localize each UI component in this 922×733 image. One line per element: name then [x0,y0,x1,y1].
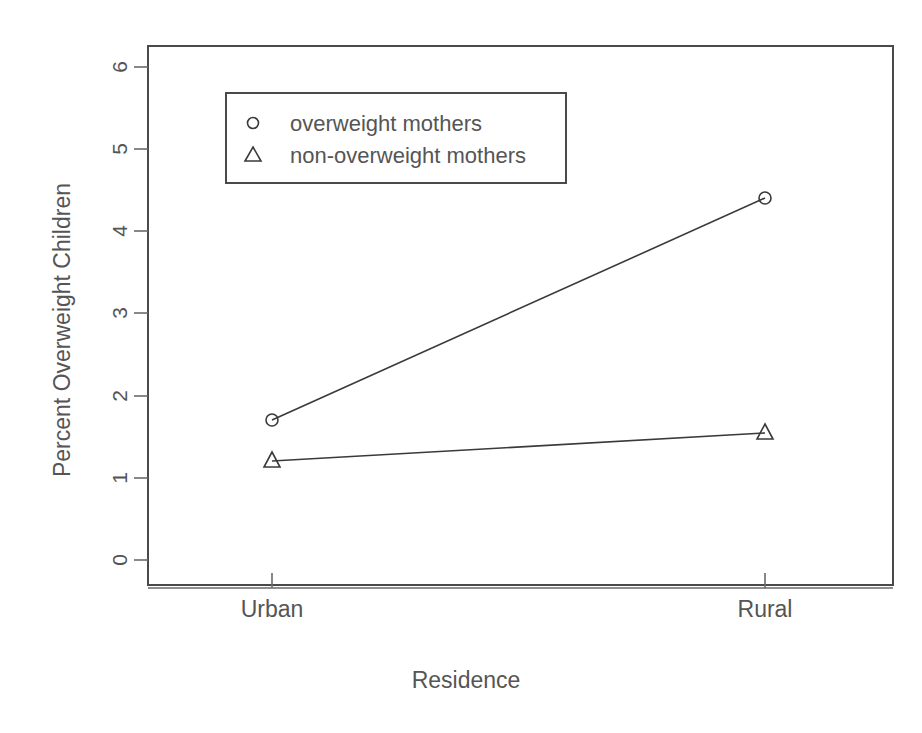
y-tick-label-3: 3 [108,307,131,319]
series-non-overweight-mothers [264,424,773,467]
y-tick-label-1: 1 [108,472,131,484]
legend-label-overweight: overweight mothers [290,111,482,136]
x-tick-label-rural: Rural [738,596,793,622]
series-overweight-line [272,198,765,420]
legend-label-non-overweight: non-overweight mothers [290,143,526,168]
y-axis-title: Percent Overweight Children [49,183,75,477]
x-axis-title: Residence [412,667,521,693]
y-tick-label-0: 0 [108,554,131,566]
y-tick-label-4: 4 [108,225,131,237]
series-overweight-mothers [266,192,771,426]
y-axis-ticks [134,67,148,560]
data-point-non-overweight-rural [757,424,773,439]
x-tick-label-urban: Urban [241,596,304,622]
legend-box [226,93,566,183]
cropped-title-strip [0,0,922,10]
y-tick-label-6: 6 [108,61,131,73]
chart-figure: 0 1 2 3 4 5 6 Percent Overweight Childre… [0,0,922,733]
data-point-non-overweight-urban [264,452,280,467]
y-tick-label-5: 5 [108,143,131,155]
chart-legend: overweight mothers non-overweight mother… [226,93,566,183]
chart-svg: 0 1 2 3 4 5 6 Percent Overweight Childre… [0,0,922,733]
series-non-overweight-line [272,433,765,461]
y-tick-label-2: 2 [108,390,131,402]
y-axis-tick-labels: 0 1 2 3 4 5 6 [108,61,131,566]
